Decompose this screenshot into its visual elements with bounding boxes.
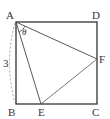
segment-af <box>16 22 97 59</box>
label-e: E <box>38 106 45 118</box>
label-theta: θ <box>22 27 27 37</box>
segment-ae <box>16 22 41 104</box>
label-f: F <box>99 53 105 65</box>
geometry-diagram: A D B C E F θ 3 <box>0 0 110 119</box>
dimension-arc <box>10 23 16 103</box>
label-side-length: 3 <box>3 57 9 69</box>
label-a: A <box>6 9 14 21</box>
label-b: B <box>8 106 15 118</box>
label-d: D <box>92 9 100 21</box>
segment-ef <box>41 59 97 104</box>
label-c: C <box>92 106 99 118</box>
